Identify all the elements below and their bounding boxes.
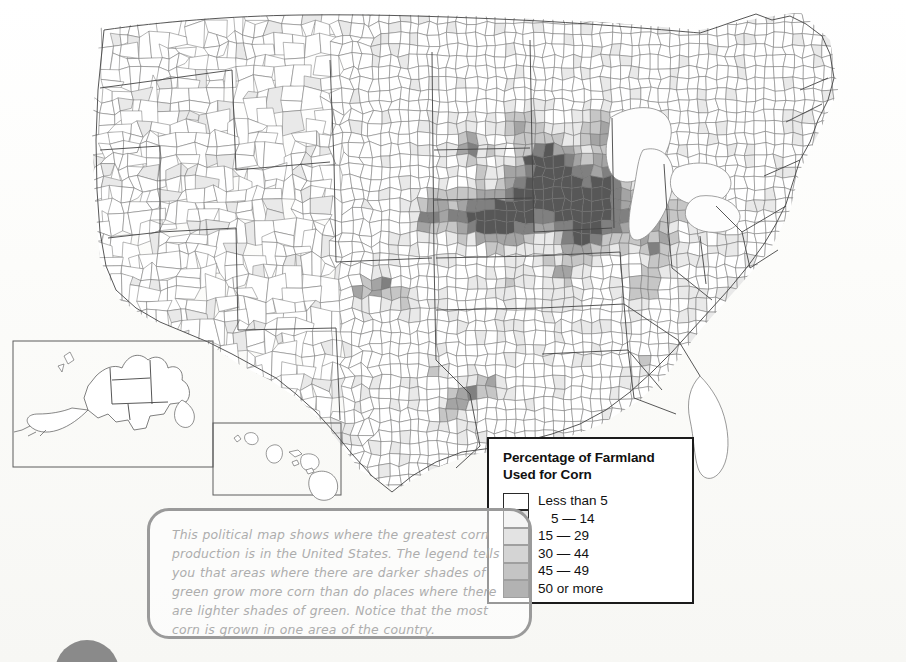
legend-entry-label: 50 or more — [538, 580, 603, 598]
caption-text: This political map shows where the great… — [172, 525, 509, 640]
alaska-inset-group — [13, 341, 213, 467]
legend-entry-label: 5 — 14 — [551, 510, 595, 528]
legend-entry-label: 45 — 49 — [538, 562, 589, 580]
map-page: .c0{fill:#ffffff} .c1{fill:#e9e9e9} .c2{… — [0, 0, 906, 662]
legend-title-line1: Percentage of Farmland — [503, 450, 655, 465]
legend-entry: Less than 5 — [503, 492, 692, 510]
legend-entry-label: 15 — 29 — [538, 527, 589, 545]
caption-box: This political map shows where the great… — [147, 508, 532, 639]
legend-title: Percentage of Farmland Used for Corn — [503, 450, 683, 483]
legend-title-line2: Used for Corn — [503, 467, 592, 482]
legend-entry-label: Less than 5 — [538, 492, 608, 510]
legend-entry-label: 30 — 44 — [538, 545, 589, 563]
hawaii-inset-group — [213, 423, 341, 500]
